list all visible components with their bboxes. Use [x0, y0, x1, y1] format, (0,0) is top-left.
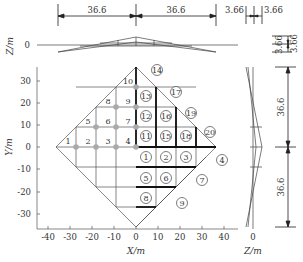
svg-text:13: 13 [141, 92, 151, 101]
y-axis-label: Y/m [4, 138, 14, 156]
svg-text:8: 8 [105, 97, 110, 106]
svg-text:-10: -10 [17, 164, 31, 174]
right-elevation [246, 67, 262, 229]
svg-text:20: 20 [175, 232, 186, 242]
svg-text:-20: -20 [85, 232, 99, 242]
svg-text:10: 10 [153, 232, 164, 242]
svg-text:20: 20 [205, 128, 215, 137]
svg-text:5: 5 [85, 117, 90, 126]
svg-text:16: 16 [161, 112, 171, 121]
y-tick-labels: 30 20 10 0 -10 -20 -30 [17, 76, 31, 219]
svg-text:6: 6 [105, 117, 110, 126]
svg-text:7: 7 [125, 117, 130, 126]
dim-right-small-top: 3.66 [289, 34, 299, 53]
top-elev-axis-label: Z/m [5, 37, 15, 56]
svg-text:7: 7 [199, 176, 204, 185]
svg-text:2: 2 [85, 137, 90, 146]
svg-text:1: 1 [65, 137, 70, 146]
svg-text:18: 18 [181, 132, 191, 141]
svg-text:0: 0 [26, 142, 31, 152]
svg-text:14: 14 [152, 66, 162, 75]
svg-text:4: 4 [125, 137, 130, 146]
right-elev-axis-label: Z/m [243, 246, 262, 256]
svg-text:6: 6 [163, 174, 168, 183]
right-elev-zero-tick: 0 [250, 232, 255, 242]
svg-text:0: 0 [133, 232, 138, 242]
dim-top-small-left: 3.66 [225, 5, 244, 15]
svg-text:12: 12 [141, 112, 151, 121]
dim-right-upper: 36.6 [276, 98, 286, 117]
svg-text:19: 19 [186, 109, 196, 118]
dim-right-lower: 36.6 [276, 178, 286, 197]
svg-text:2: 2 [163, 153, 168, 162]
x-tick-labels: -40 -30 -20 -10 0 10 20 30 40 [41, 232, 229, 242]
svg-text:30: 30 [197, 232, 208, 242]
svg-text:11: 11 [141, 132, 151, 141]
svg-text:10: 10 [20, 120, 31, 130]
svg-text:5: 5 [143, 174, 148, 183]
dim-top-left: 36.6 [88, 5, 107, 15]
top-elevation [37, 37, 238, 52]
svg-text:-40: -40 [41, 232, 55, 242]
svg-text:10: 10 [123, 77, 133, 86]
grid-shell-diagram: 36.6 36.6 3.66 3.66 0 Z/m [0, 0, 303, 262]
svg-text:3: 3 [105, 137, 110, 146]
x-axis-label: X/m [126, 246, 145, 256]
svg-text:-20: -20 [17, 187, 31, 197]
right-dimension-lines [272, 36, 296, 227]
svg-text:30: 30 [20, 76, 31, 86]
svg-text:17: 17 [171, 88, 181, 97]
svg-text:8: 8 [143, 194, 148, 203]
dim-top-right: 36.6 [167, 5, 186, 15]
svg-text:3: 3 [183, 153, 188, 162]
svg-text:4: 4 [219, 156, 224, 165]
dim-right-small-bottom: 3.66 [274, 35, 284, 54]
svg-text:9: 9 [179, 199, 184, 208]
svg-text:15: 15 [161, 132, 171, 141]
svg-text:-10: -10 [107, 232, 121, 242]
svg-text:1: 1 [143, 153, 148, 162]
top-elev-zero-tick: 0 [25, 40, 30, 50]
svg-text:40: 40 [219, 232, 230, 242]
svg-text:20: 20 [20, 98, 31, 108]
svg-text:9: 9 [125, 97, 130, 106]
dim-top-small-right: 3.66 [264, 5, 283, 15]
svg-text:-30: -30 [17, 209, 31, 219]
svg-text:-30: -30 [63, 232, 77, 242]
